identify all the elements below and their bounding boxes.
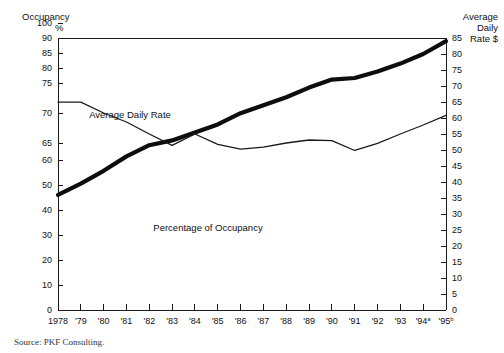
x-axis-tick-label: '79 (75, 316, 87, 326)
left-axis-tick-label: 20 (42, 255, 52, 265)
series-annotation-label: Average Daily Rate (89, 109, 171, 120)
hotel-occupancy-adr-chart: Occupancy % Average Daily Rate $ 0102030… (0, 0, 504, 353)
right-axis-tick-label: 45 (452, 161, 462, 171)
x-axis-tick-label: '92 (372, 316, 384, 326)
x-axis-tick-label: '82 (143, 316, 155, 326)
right-axis-tick-label: 55 (452, 129, 462, 139)
right-axis-tick-label: 20 (452, 241, 462, 251)
series-annotation-label: Percentage of Occupancy (153, 222, 263, 233)
left-axis-tick-label: 50 (42, 180, 52, 190)
right-axis-tick-label: 40 (452, 177, 462, 187)
x-axis-tick-label: '81 (121, 316, 133, 326)
right-axis-tick-label: 65 (452, 97, 462, 107)
right-axis-tick-label: 25 (452, 225, 462, 235)
right-axis-tick-label: 10 (452, 273, 462, 283)
right-axis-tick-label: 15 (452, 257, 462, 267)
right-axis-title-line1: Average (463, 11, 498, 22)
left-axis-tick-label: 70 (42, 108, 52, 118)
right-axis-tick-label: 85 (452, 33, 462, 43)
left-axis-tick-label: 85 (42, 48, 52, 58)
right-axis-title-line2: Daily (477, 22, 498, 33)
left-axis-tick-label: 100 (37, 18, 52, 28)
x-axis-tick-label: '83 (166, 316, 178, 326)
source-note: Source: PKF Consulting. (14, 337, 104, 347)
x-axis-tick-label: '86 (235, 316, 247, 326)
left-axis-tick-label: 60 (42, 155, 52, 165)
left-axis-tick-label: 10 (42, 280, 52, 290)
right-axis-tick-label: 70 (452, 81, 462, 91)
x-axis-tick-label: 1978 (48, 316, 68, 326)
x-axis-tick-label: '89 (303, 316, 315, 326)
right-axis-tick-label: 5 (452, 289, 457, 299)
right-axis-tick-label: 75 (452, 65, 462, 75)
right-axis-tick-label: 0 (452, 305, 457, 315)
x-axis-tick-label: '80 (98, 316, 110, 326)
left-axis-tick-label: 65 (42, 138, 52, 148)
right-axis-tick-label: 30 (452, 209, 462, 219)
x-axis-tick-label: '87 (258, 316, 270, 326)
right-axis-tick-label: 50 (452, 145, 462, 155)
x-axis-tick-label: '88 (280, 316, 292, 326)
left-axis-tick-label: 0 (47, 305, 52, 315)
left-axis-title-line2: % (55, 22, 64, 33)
left-axis-tick-label: 30 (42, 230, 52, 240)
right-axis-tick-label: 35 (452, 193, 462, 203)
x-axis-tick-label: '90 (326, 316, 338, 326)
left-axis-tick-label: 75 (42, 78, 52, 88)
x-axis-tick-label: '93 (394, 316, 406, 326)
right-axis-tick-label: 60 (452, 113, 462, 123)
left-axis-tick-label: 90 (42, 33, 52, 43)
x-axis-tick-label: '91 (349, 316, 361, 326)
x-axis-tick-label: '85 (212, 316, 224, 326)
right-axis-title-line3: Rate $ (470, 33, 499, 44)
left-axis-tick-label: 80 (42, 63, 52, 73)
right-axis-tick-label: 80 (452, 49, 462, 59)
x-axis-tick-label: '84 (189, 316, 201, 326)
left-axis-tick-label: 40 (42, 205, 52, 215)
